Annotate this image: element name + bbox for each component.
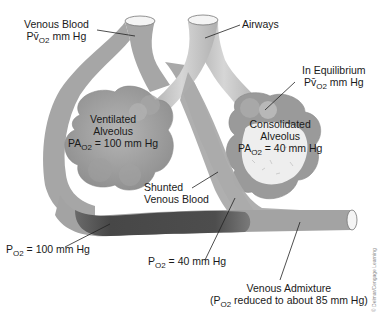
label-airways: Airways xyxy=(242,18,279,30)
copyright-credit: © Delmar/Cengage Learning xyxy=(371,248,377,312)
label-shunted-venous-blood: Shunted Venous Blood xyxy=(144,181,209,205)
label-consolidated-alveolus: Consolidated Alveolus PAO2 = 40 mm Hg xyxy=(238,118,322,154)
diagram-artwork xyxy=(0,0,389,322)
label-ventilated-alveolus: Ventilated Alveolus PAO2 = 100 mm Hg xyxy=(68,113,158,149)
label-in-equilibrium: In Equilibrium Pv̄O2 mm Hg xyxy=(302,64,366,88)
label-po2-100: PO2 = 100 mm Hg xyxy=(6,243,90,255)
label-venous-blood: Venous Blood Pv̄O2 mm Hg xyxy=(24,18,89,42)
label-venous-admixture: Venous Admixture (PO2 reduced to about 8… xyxy=(210,282,368,306)
label-po2-40: PO2 = 40 mm Hg xyxy=(148,255,226,267)
